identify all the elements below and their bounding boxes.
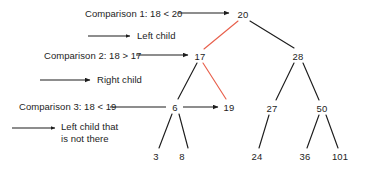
tree-node-3: 3 xyxy=(153,151,158,162)
edge-28-27 xyxy=(276,63,294,100)
tree-edges-highlighted xyxy=(203,21,238,99)
tree-node-28: 28 xyxy=(293,51,304,62)
tree-node-27: 27 xyxy=(267,103,278,114)
tree-node-24: 24 xyxy=(252,151,263,162)
annotation-comparison-2: Comparison 2: 18 > 17 xyxy=(44,50,141,61)
edge-6-3 xyxy=(159,114,172,148)
tree-node-19: 19 xyxy=(224,102,235,113)
tree-node-17: 17 xyxy=(195,51,206,62)
tree-node-20: 20 xyxy=(238,9,249,20)
diagram-lines-layer xyxy=(0,0,367,170)
bst-search-diagram: 20 17 28 6 19 27 50 3 8 24 36 101 Compar… xyxy=(0,0,367,170)
annotation-left-child-not-there-line2: is not there xyxy=(61,133,109,144)
edge-50-101 xyxy=(326,115,338,148)
edge-20-17-highlight xyxy=(204,21,238,49)
tree-node-50: 50 xyxy=(317,103,328,114)
annotation-left-child-not-there-line1: Left child that xyxy=(61,121,118,132)
tree-node-36: 36 xyxy=(300,151,311,162)
edge-20-28 xyxy=(250,21,294,48)
annotation-comparison-1: Comparison 1: 18 < 20 xyxy=(85,8,182,19)
annotation-right-child: Right child xyxy=(97,74,142,85)
annotation-left-child-not-there: Left child that is not there xyxy=(61,121,141,144)
edge-17-19-highlight xyxy=(203,63,226,99)
tree-node-6: 6 xyxy=(172,102,177,113)
tree-node-101: 101 xyxy=(332,151,348,162)
tree-edges xyxy=(159,21,338,148)
edge-28-50 xyxy=(303,63,319,100)
annotation-left-child-1: Left child xyxy=(137,30,176,41)
edge-50-36 xyxy=(307,115,319,148)
edge-17-6 xyxy=(178,63,197,99)
edge-6-8 xyxy=(179,114,188,148)
tree-node-8: 8 xyxy=(179,151,184,162)
annotation-comparison-3: Comparison 3: 18 < 19 xyxy=(19,101,116,112)
edge-27-24 xyxy=(259,115,269,148)
